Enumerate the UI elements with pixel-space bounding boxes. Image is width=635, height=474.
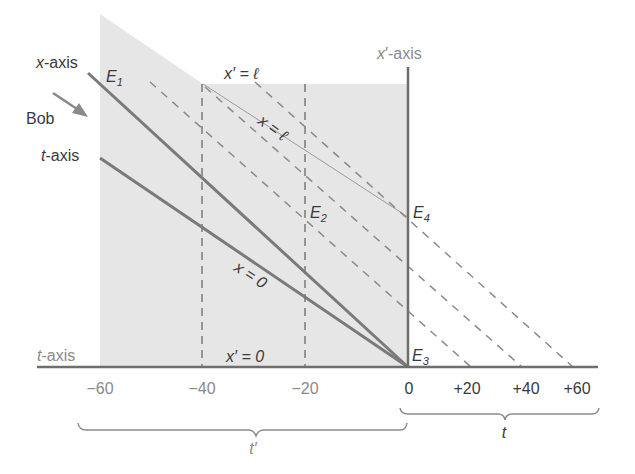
event-e4-label: E4 bbox=[413, 204, 430, 224]
brace-t bbox=[400, 408, 599, 420]
t-axis-horizontal-label: t-axis bbox=[37, 347, 75, 364]
tick-label-p20: +20 bbox=[453, 380, 480, 397]
spacetime-diagram: x-axis Bob t-axis t-axis x′-axis E1 E2 E… bbox=[0, 0, 635, 474]
tick-label-m40: −40 bbox=[188, 380, 215, 397]
brace-t-prime-label: t′ bbox=[249, 440, 257, 457]
tick-label-m60: −60 bbox=[86, 380, 113, 397]
x-axis-label: x-axis bbox=[35, 54, 78, 71]
x-prime-equals-zero-label: x′ = 0 bbox=[225, 348, 264, 365]
brace-t-prime bbox=[78, 423, 407, 436]
tick-label-p60: +60 bbox=[563, 380, 590, 397]
t-axis-slanted-label: t-axis bbox=[41, 147, 79, 164]
x-prime-axis-label: x′-axis bbox=[376, 45, 422, 62]
event-e3-label: E3 bbox=[412, 347, 430, 367]
tick-label-0: 0 bbox=[405, 380, 414, 397]
brace-t-label: t bbox=[502, 424, 507, 441]
bob-label: Bob bbox=[26, 110, 55, 127]
tick-label-m20: −20 bbox=[291, 380, 318, 397]
x-prime-equals-ell-label: x′ = ℓ bbox=[223, 65, 259, 82]
tick-label-p40: +40 bbox=[512, 380, 539, 397]
bob-arrow-icon bbox=[53, 93, 88, 117]
